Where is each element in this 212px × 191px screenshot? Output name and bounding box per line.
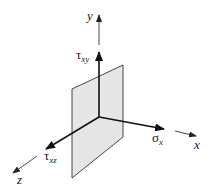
z-axis-label: z [16, 172, 22, 187]
tau-xy-subscript: xy [80, 54, 89, 64]
z-axis-line [13, 156, 37, 173]
x-axis-line [175, 131, 196, 136]
tau-xz-subscript: xz [48, 155, 57, 165]
stress-plane [72, 65, 123, 178]
stress-diagram: y τxy σx x τxz z [0, 0, 212, 191]
sigma-x-subscript: x [158, 137, 163, 147]
sigma-x-label: σx [152, 130, 163, 147]
y-axis-label: y [85, 8, 93, 23]
tau-xy-label: τxy [76, 47, 89, 64]
sigma-x-symbol: σ [152, 130, 159, 145]
x-axis-label: x [193, 137, 200, 152]
tau-xz-label: τxz [44, 148, 57, 165]
